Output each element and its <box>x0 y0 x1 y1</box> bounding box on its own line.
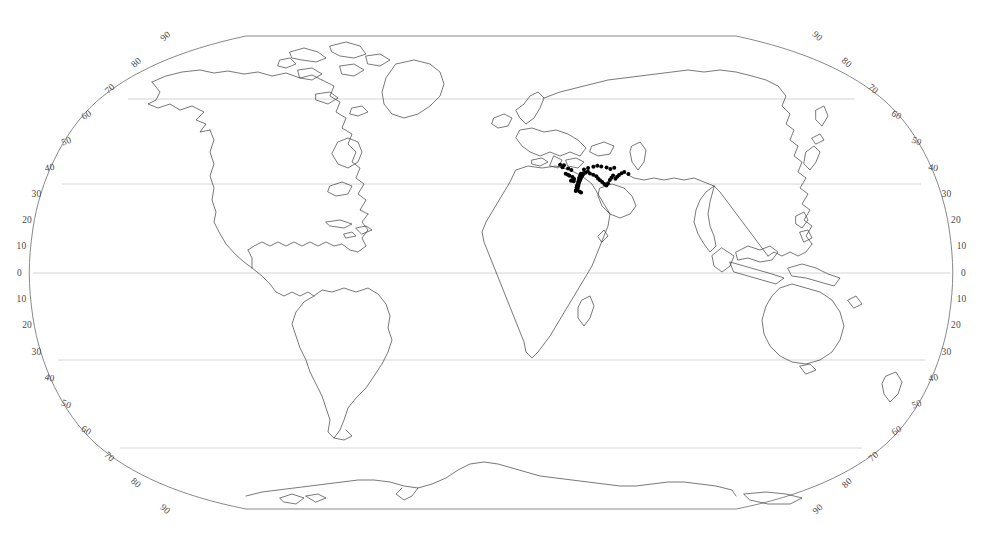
latitude-label: 0 <box>961 268 966 278</box>
latitude-label: 0 <box>17 268 22 278</box>
occurrence-point <box>599 165 603 169</box>
latitude-label: 30 <box>32 347 42 357</box>
occurrence-point <box>558 163 562 167</box>
occurrence-point <box>626 172 630 176</box>
latitude-label: 20 <box>22 320 32 330</box>
latitude-label: 40 <box>928 372 940 384</box>
latitude-label: 30 <box>942 347 952 357</box>
occurrence-point <box>574 189 578 193</box>
latitude-label: 10 <box>957 294 967 304</box>
world-map-container: 9080706050403020100102030405060708090 90… <box>0 0 982 546</box>
occurrence-point <box>611 174 615 178</box>
latitude-label: 30 <box>32 189 42 199</box>
occurrence-point <box>622 170 626 174</box>
latitude-label: 40 <box>928 162 940 174</box>
occurrence-point <box>608 167 612 171</box>
occurrence-point <box>579 191 583 195</box>
occurrence-point <box>569 168 573 172</box>
occurrence-point <box>595 164 599 168</box>
occurrence-point <box>582 167 586 171</box>
latitude-label: 10 <box>957 241 967 251</box>
latitude-label: 40 <box>44 162 56 174</box>
latitude-label: 20 <box>951 215 961 225</box>
latitude-label: 10 <box>16 241 26 251</box>
occurrence-point <box>564 172 568 176</box>
occurrence-point <box>586 166 590 170</box>
occurrence-point <box>605 165 609 169</box>
latitude-label: 20 <box>951 320 961 330</box>
latitude-label: 40 <box>44 372 56 384</box>
latitude-label: 10 <box>16 294 26 304</box>
world-map-figure: 9080706050403020100102030405060708090 90… <box>0 0 982 546</box>
latitude-label: 30 <box>942 189 952 199</box>
latitude-label: 20 <box>22 215 32 225</box>
occurrence-point <box>612 166 616 170</box>
occurrence-point <box>562 163 566 167</box>
occurrence-point <box>591 165 595 169</box>
